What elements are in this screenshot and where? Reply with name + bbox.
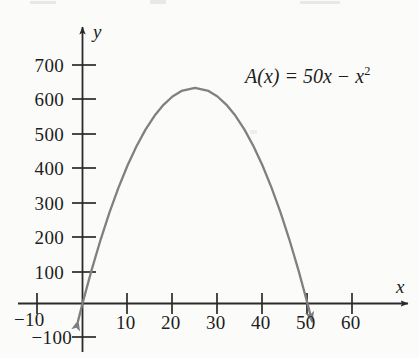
y-tick-label-neg100: −100: [0, 328, 72, 347]
x-tick-label-30: 30: [206, 313, 226, 332]
x-tick-label-neg10: −10: [14, 310, 45, 329]
equation-exponent: 2: [364, 64, 370, 78]
x-tick-label-10: 10: [116, 313, 136, 332]
y-tick-label-600: 600: [8, 90, 64, 109]
y-axis-label: y: [93, 22, 101, 41]
y-tick-label-300: 300: [8, 194, 64, 213]
x-tick-label-60: 60: [341, 313, 361, 332]
y-tick-label-400: 400: [8, 159, 64, 178]
y-tick-label-700: 700: [8, 56, 64, 75]
equation-annotation: A(x) = 50x − x2: [245, 66, 370, 86]
y-tick-label-100: 100: [8, 263, 64, 282]
x-tick-label-40: 40: [251, 313, 271, 332]
equation-body: A(x) = 50x − x: [245, 65, 364, 87]
graph-figure: 700 600 500 400 300 200 100 −100 −10 10 …: [0, 0, 419, 358]
y-tick-label-200: 200: [8, 228, 64, 247]
y-tick-label-500: 500: [8, 125, 64, 144]
x-tick-label-50: 50: [296, 313, 316, 332]
x-axis-label: x: [396, 277, 404, 296]
plot-canvas: [0, 0, 419, 358]
parabola-curve: [78, 88, 312, 321]
x-tick-label-20: 20: [161, 313, 181, 332]
